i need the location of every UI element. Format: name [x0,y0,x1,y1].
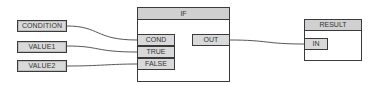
result-node[interactable]: RESULT IN [304,19,362,61]
wire-value2-to-false [67,64,137,66]
wire-value1-to-true [67,46,137,52]
source-value2[interactable]: VALUE2 [17,60,67,72]
if-port-false[interactable]: FALSE [137,58,175,70]
result-port-in[interactable]: IN [304,38,328,50]
if-node-title: IF [138,8,229,20]
if-port-out[interactable]: OUT [192,34,230,46]
source-condition[interactable]: CONDITION [17,20,67,32]
if-port-true[interactable]: TRUE [137,46,175,58]
wire-out-to-in [230,40,304,44]
wire-condition-to-cond [67,26,137,40]
result-node-title: RESULT [305,20,361,31]
if-node[interactable]: IF COND TRUE FALSE OUT [137,7,230,82]
source-value1[interactable]: VALUE1 [17,41,67,53]
if-port-cond[interactable]: COND [137,34,175,46]
